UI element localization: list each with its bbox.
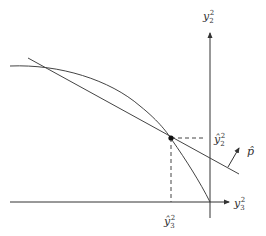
optimal-point [168,135,173,140]
horizontal-axis-label: y32 [233,196,245,212]
tangent-line [28,58,239,174]
frontier-curve [10,66,210,202]
vertical-axis-label: y22 [202,9,214,25]
price-vector-arrow [228,148,239,167]
optimal-x-label: ŷ32 [163,214,175,230]
diagram-canvas: y22 y32 ŷ22 ŷ32 p̂ [0,0,266,236]
optimal-y-label: ŷ22 [213,132,225,148]
price-vector-label: p̂ [247,145,254,158]
